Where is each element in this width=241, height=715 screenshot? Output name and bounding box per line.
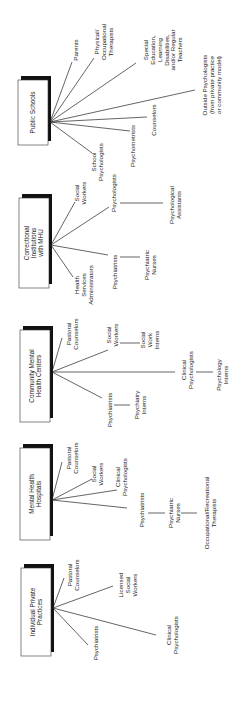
role-label: SocialWorkers	[105, 324, 119, 347]
sub-role-label-line: Interns	[222, 366, 229, 385]
role-label-line: Psychologists	[172, 616, 179, 654]
role-label-line: Psychiatrists	[111, 255, 118, 290]
role-label: Psychiatrists	[111, 255, 118, 290]
role-label-line: Psychologists	[110, 174, 117, 212]
branch-line	[50, 117, 147, 122]
setting-label-correctional-institutions-line: Correctional	[23, 226, 30, 260]
setting-label-community-mental-health-centers: Community MentalHealth Centers	[28, 349, 42, 402]
setting-label-public-schools: Public Schools	[29, 92, 36, 134]
branch-line	[51, 207, 109, 245]
sub-role-label: PsychologicalAssistants	[168, 186, 182, 224]
sub-role-label-line: Nurses	[174, 503, 181, 523]
setting-label-correctional-institutions: CorrectionalInstitutionswith MHU	[23, 226, 44, 260]
role-label-line: Parents	[72, 39, 79, 60]
setting-label-mental-health-hospitals-line: Mental Health	[28, 474, 35, 514]
branch-line	[51, 245, 108, 255]
setting-label-community-mental-health-centers-line: Health Centers	[35, 355, 42, 398]
role-label: ClinicalPsychologists	[165, 616, 179, 654]
role-label: Psychiatrists	[106, 393, 113, 428]
role-label-line: Workers	[80, 182, 87, 205]
branch-line	[50, 58, 94, 122]
branch-line	[53, 578, 64, 608]
role-label-line: Psychometrists	[129, 125, 136, 167]
sub-role-label: Occupational/RecreationalTherapists	[203, 477, 217, 550]
role-label: SocialWorkers	[90, 463, 104, 486]
role-label: PastoralCounselors	[66, 559, 80, 590]
branch-line	[52, 350, 108, 372]
sub-role-label-line: Therapists	[210, 499, 217, 528]
role-label-line: Teachers	[176, 37, 183, 62]
branch-line	[51, 202, 75, 245]
branch-line	[50, 62, 72, 122]
sub-role-label: PsychiatricNurses	[143, 250, 157, 280]
role-label-line: Workers	[131, 574, 138, 597]
branch-line	[50, 90, 195, 122]
branch-line	[53, 586, 113, 608]
role-label: ClinicalPsychologists	[180, 351, 194, 389]
branch-line	[50, 122, 92, 153]
role-label-line: Counselors	[72, 318, 79, 349]
role-label: Psychiatrists	[138, 493, 145, 528]
role-label: PastoralCounselors	[65, 442, 79, 473]
role-label-line: Therapists	[107, 28, 114, 57]
role-label: Psychometrists	[129, 125, 136, 167]
role-label: Counselors	[150, 104, 157, 135]
role-label-line: Administrators	[87, 265, 94, 305]
sub-role-label-line: Assistants	[175, 191, 182, 219]
setting-label-correctional-institutions-line: Institutions	[30, 228, 37, 259]
branch-line	[50, 122, 130, 131]
role-label: LicensedSocialWorkers	[117, 572, 138, 597]
role-label-line: Counselors	[150, 104, 157, 135]
role-label-line: Psychologists	[187, 351, 194, 389]
sub-role-label: PsychologyInterns	[215, 358, 229, 391]
branch-line	[53, 608, 156, 635]
sub-role-label-line: Nurses	[150, 255, 157, 275]
role-label-line: Psychiatrists	[138, 493, 145, 528]
branch-line	[52, 338, 62, 372]
setting-label-public-schools-line: Public Schools	[29, 92, 36, 134]
role-label: Outside Psychologists(from private pract…	[201, 55, 222, 116]
setting-label-individual-private-practices-line: Individual Private	[29, 587, 36, 636]
branch-line	[52, 462, 62, 500]
mental-health-settings-diagram: Public SchoolsParentsPhysical/Occupation…	[0, 0, 241, 715]
setting-label-mental-health-hospitals-line: Hospitals	[35, 481, 43, 507]
branch-line	[53, 608, 88, 645]
role-label-line: Psychologists	[97, 143, 104, 181]
branch-line	[52, 372, 102, 398]
sub-role-label-line: Interns	[153, 331, 160, 350]
role-label-line: Counselors	[72, 442, 79, 473]
setting-label-correctional-institutions-line: with MHU	[37, 229, 44, 258]
role-label: Parents	[72, 39, 79, 60]
branch-line	[52, 500, 127, 508]
role-label: HealthServicesAdministrators	[73, 265, 94, 305]
role-label-line: Workers	[97, 463, 104, 486]
role-label: Psychologists	[110, 174, 117, 212]
branch-line	[51, 245, 73, 277]
role-label: Psychiatrists	[92, 626, 99, 661]
sub-role-label: PsychiatricNurses	[167, 498, 181, 528]
role-label-line: Psychiatrists	[92, 626, 99, 661]
role-label-line: or community model)	[215, 56, 222, 114]
role-label: Physical/OccupationalTherapists	[93, 24, 114, 60]
role-label-line: Counselors	[73, 559, 80, 590]
role-label-line: Workers	[112, 324, 119, 347]
role-label-line: Psychologists	[121, 458, 128, 496]
role-label: PastoralCounselors	[65, 318, 79, 349]
sub-role-label-line: Interns	[140, 396, 147, 415]
role-label: SocialWorkers	[73, 182, 87, 205]
sub-role-label: PsychiatryInterns	[133, 390, 147, 419]
role-label: SpecialEducation,LearningDisabilities,an…	[142, 30, 183, 71]
setting-label-individual-private-practices-line: Practices	[36, 599, 43, 625]
role-label-line: Psychiatrists	[106, 393, 113, 428]
role-label: SchoolPsychologists	[90, 143, 104, 181]
branch-line	[50, 63, 136, 122]
sub-role-label: SocialWorkInterns	[139, 331, 160, 350]
